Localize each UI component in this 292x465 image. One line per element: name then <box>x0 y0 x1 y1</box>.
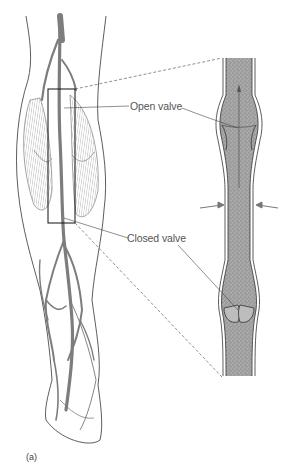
label-closed-valve: Closed valve <box>127 232 186 244</box>
leg-outline <box>16 16 106 443</box>
panel-label: (a) <box>26 452 37 462</box>
label-open-valve: Open valve <box>130 100 182 112</box>
enlarged-vein-segment <box>200 58 278 376</box>
closed-valve <box>224 305 254 322</box>
